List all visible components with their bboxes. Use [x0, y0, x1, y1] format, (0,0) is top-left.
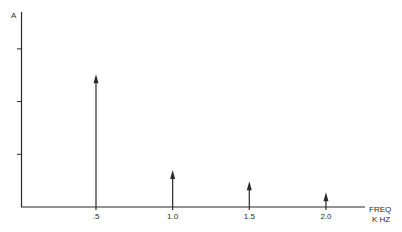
arrowhead-icon: [323, 192, 328, 201]
x-tick-label: 2.0: [320, 212, 332, 221]
arrowhead-icon: [247, 181, 252, 190]
spectral-lines: [94, 74, 329, 210]
x-tick-label: .5: [93, 212, 100, 221]
spectral-line-arrow: [170, 170, 175, 210]
arrowhead-icon: [94, 74, 99, 83]
x-tick-label: 1.5: [244, 212, 256, 221]
x-axis-label-line1: FREQ: [369, 205, 391, 214]
spectral-line-arrow: [94, 74, 99, 210]
x-axis-label-line2: K HZ: [372, 215, 390, 224]
x-tick-label: 1.0: [167, 212, 179, 221]
spectrum-chart: .51.01.52.0 A FREQ K HZ: [0, 0, 402, 232]
y-ticks: [17, 49, 22, 154]
x-tick-labels: .51.01.52.0: [93, 212, 332, 221]
y-axis-label: A: [11, 11, 17, 20]
arrowhead-icon: [170, 170, 175, 179]
spectral-line-arrow: [247, 181, 252, 210]
